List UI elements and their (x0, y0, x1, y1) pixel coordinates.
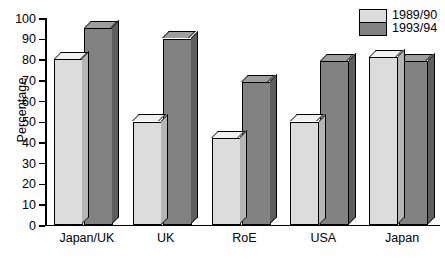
y-axis-tick-label: 80 (22, 53, 36, 67)
x-axis-category-label: RoE (232, 231, 256, 245)
y-axis-tick: 10 (39, 204, 45, 206)
y-axis-tick: 80 (39, 59, 45, 61)
bar (212, 138, 241, 225)
bar-side-face (82, 51, 89, 224)
y-axis-tick: 70 (39, 80, 45, 82)
y-axis-tick-label: 40 (22, 136, 36, 150)
y-axis-label: Percentage (15, 50, 29, 170)
y-axis-tick: 0 (39, 225, 45, 227)
legend-label: 1993/94 (392, 22, 437, 35)
bar (133, 122, 162, 226)
y-axis-tick: 40 (39, 142, 45, 144)
bar (369, 57, 398, 225)
legend: 1989/901993/94 (359, 9, 437, 36)
x-axis-category-label: USA (310, 231, 336, 245)
bar-side-face (112, 20, 119, 224)
y-axis-tick-label: 30 (22, 157, 36, 171)
legend-swatch (360, 22, 386, 35)
y-axis-tick: 50 (39, 122, 45, 124)
bar (54, 59, 83, 225)
y-axis-tick: 20 (39, 184, 45, 186)
y-axis-tick-label: 50 (22, 115, 36, 129)
bar-chart: Percentage 0102030405060708090100 Japan/… (0, 0, 445, 259)
y-axis-tick-label: 20 (22, 177, 36, 191)
bar-side-face (240, 130, 247, 224)
bar-side-face (191, 31, 198, 224)
y-axis-tick: 90 (39, 39, 45, 41)
y-axis-tick-label: 60 (22, 95, 36, 109)
y-axis-tick: 60 (39, 101, 45, 103)
x-axis-category-label: Japan/UK (59, 231, 114, 245)
y-axis-tick-label: 70 (22, 74, 36, 88)
legend-swatch (360, 10, 386, 22)
bar-side-face (349, 53, 356, 224)
y-axis-tick: 30 (39, 163, 45, 165)
x-axis-category-label: Japan (385, 231, 419, 245)
bar-side-face (428, 53, 435, 224)
bar (290, 122, 319, 226)
y-axis-tick-label: 100 (15, 12, 36, 26)
y-axis-tick-label: 90 (22, 32, 36, 46)
y-axis-tick-label: 10 (22, 198, 36, 212)
bar-side-face (398, 49, 405, 224)
y-axis-tick-label: 0 (29, 219, 36, 233)
bar-side-face (319, 114, 326, 225)
plot-area (46, 18, 440, 225)
legend-label: 1989/90 (392, 9, 437, 22)
bar-side-face (270, 74, 277, 224)
x-axis-category-label: UK (157, 231, 174, 245)
bar-side-face (161, 114, 168, 225)
y-axis-tick: 100 (39, 18, 45, 20)
legend-label-list: 1989/901993/94 (392, 9, 437, 36)
legend-swatch-box (359, 9, 387, 36)
